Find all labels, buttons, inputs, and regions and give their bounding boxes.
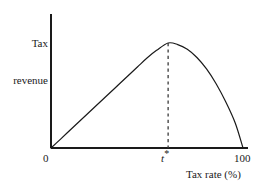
x-tick-label-zero: 0 xyxy=(43,152,49,164)
y-axis-label: Tax revenue xyxy=(8,12,48,111)
y-axis-label-line-2: revenue xyxy=(8,74,48,86)
laffer-curve-path xyxy=(51,43,243,148)
y-axis-label-line-1: Tax xyxy=(8,37,48,49)
x-axis-label: Tax rate (%) xyxy=(186,168,241,180)
optimal-rate-star: * xyxy=(164,148,169,159)
x-tick-label-optimal-rate: t* xyxy=(161,152,169,164)
laffer-curve-figure: Tax revenue Tax rate (%) 0 t* 100 xyxy=(0,0,270,187)
x-tick-label-hundred: 100 xyxy=(234,152,251,164)
